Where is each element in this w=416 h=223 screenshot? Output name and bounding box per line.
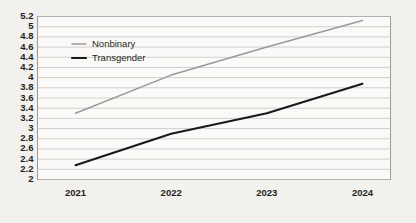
x-axis-tick-labels: 2021202220232024 <box>65 187 374 198</box>
legend-label-transgender: Transgender <box>92 52 146 63</box>
y-axis-tick-label: 2 <box>28 173 33 184</box>
chart-canvas: 5.254.84.64.44.243.83.63.43.232.82.62.42… <box>0 0 416 223</box>
x-axis-tick-label: 2021 <box>65 187 87 198</box>
y-axis-tick-labels: 5.254.84.64.44.243.83.63.43.232.82.62.42… <box>20 10 34 184</box>
x-axis-tick-label: 2024 <box>352 187 374 198</box>
line-chart-figure: 5.254.84.64.44.243.83.63.43.232.82.62.42… <box>0 0 416 223</box>
x-axis-tick-label: 2023 <box>256 187 277 198</box>
x-axis-tick-label: 2022 <box>161 187 182 198</box>
legend-label-nonbinary: Nonbinary <box>92 38 136 49</box>
